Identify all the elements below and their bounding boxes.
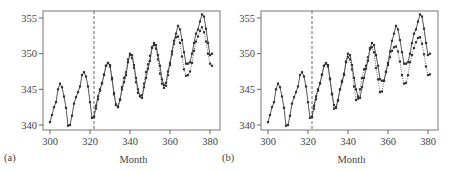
observed-data-point [183,51,185,53]
forecast-data-point [403,83,405,85]
panel-label: (b) [222,152,235,164]
observed-data-point [319,83,321,85]
observed-data-point [397,28,399,30]
forecast-data-point [353,85,355,87]
observed-data-point [321,74,323,76]
observed-data-point [399,39,401,41]
forecast-data-point [413,47,415,49]
observed-data-point [181,39,183,41]
observed-data-point [65,107,67,109]
observed-data-point [331,93,333,95]
observed-data-point [385,70,387,72]
observed-data-point [361,86,363,88]
observed-data-point [275,88,277,90]
observed-data-point [325,62,327,64]
observed-data-point [387,62,389,64]
y-tick-label: 345 [21,84,37,95]
x-tick-label: 380 [202,136,218,147]
observed-data-point [383,80,385,82]
observed-data-point [139,95,141,97]
observed-data-point [77,91,79,93]
forecast-data-point [375,67,377,69]
observed-data-point [393,33,395,35]
observed-data-point [201,13,203,15]
forecast-data-point [179,42,181,44]
forecast-data-point [411,54,413,56]
observed-data-point [315,95,317,97]
observed-data-point [297,85,299,87]
y-tick-label: 355 [21,13,37,24]
observed-data-point [339,88,341,90]
x-tick-label: 360 [380,136,396,147]
observed-data-point [61,86,63,88]
observed-data-point [195,33,197,35]
observed-data-point [63,95,65,97]
observed-data-point [67,125,69,127]
forecast-data-point [191,62,193,64]
observed-data-point [329,78,331,80]
y-tick-label: 340 [21,120,37,131]
observed-data-point [281,95,283,97]
forecast-data-point [193,50,195,52]
x-tick-label: 340 [122,136,138,147]
observed-data-point [333,104,335,106]
observed-data-point [411,42,413,44]
observed-data-point [323,65,325,67]
observed-data-point [165,82,167,84]
observed-data-point [51,114,53,116]
observed-data-point [417,20,419,22]
forecast-data-point [405,82,407,84]
observed-data-point [199,20,201,22]
observed-data-point [293,96,295,98]
observed-data-point [309,117,311,119]
observed-data-point [363,77,365,79]
chart-panel-a: 340345350355300320340360380Month(a) [0,0,228,172]
observed-data-point [335,106,337,108]
forecast-data-point [163,87,165,89]
observed-data-point [303,75,305,77]
y-tick-label: 345 [239,84,255,95]
forecast-data-point [199,30,201,32]
observed-data-point [327,64,329,66]
x-tick-label: 360 [162,136,178,147]
observed-data-point [345,61,347,63]
observed-data-point [427,54,429,56]
forecast-data-point [165,85,167,87]
observed-data-point [197,28,199,30]
forecast-data-point [401,74,403,76]
observed-data-point [395,25,397,27]
observed-data-point [93,116,95,118]
forecast-data-point [425,65,427,67]
observed-data-point [307,101,309,103]
forecast-data-point [211,65,213,67]
chart-panel-b: 340345350355300320340360380Month(b) [218,0,446,172]
observed-data-point [295,91,297,93]
forecast-data-point [377,78,379,80]
observed-data-point [131,54,133,56]
observed-data-point [111,78,113,80]
forecast-data-point [399,60,401,62]
x-tick-label: 340 [340,136,356,147]
forecast-data-point [379,91,381,93]
x-tick-label: 380 [420,136,436,147]
observed-data-point [97,95,99,97]
observed-data-point [133,64,135,66]
observed-data-point [291,103,293,105]
observed-data-point [105,65,107,67]
observed-data-point [91,117,93,119]
observed-data-point [157,54,159,56]
observed-data-point [311,116,313,118]
observed-data-point [55,101,57,103]
chart-a-svg: 340345350355300320340360380Month(a) [0,0,228,172]
observed-data-point [147,68,149,70]
forecast-data-point [359,88,361,90]
observed-data-point [177,25,179,27]
observed-data-point [179,28,181,30]
plot-frame [261,11,438,130]
observed-data-point [359,97,361,99]
observed-data-point [81,74,83,76]
x-tick-label: 300 [42,136,58,147]
observed-data-point [203,15,205,17]
observed-data-point [163,84,165,86]
forecast-data-point [429,73,431,75]
